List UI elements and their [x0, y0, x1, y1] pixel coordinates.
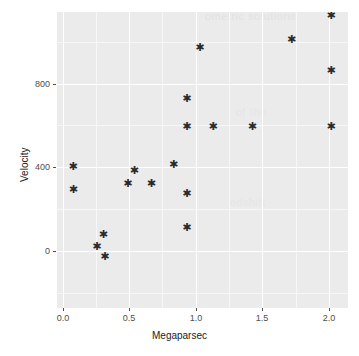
- x-tick-label: 2.0: [323, 313, 336, 323]
- data-point: ✱: [195, 42, 204, 53]
- data-point: ✱: [326, 12, 335, 20]
- data-point: ✱: [169, 159, 178, 170]
- x-tick-mark: [262, 308, 263, 311]
- x-tick-mark: [129, 308, 130, 311]
- data-point: ✱: [326, 64, 335, 75]
- data-point: ✱: [182, 221, 191, 232]
- data-point: ✱: [287, 34, 296, 45]
- y-tick-label: 800: [29, 79, 50, 89]
- data-point: ✱: [99, 229, 108, 240]
- data-point: ✱: [326, 121, 335, 132]
- x-tick-label: 1.0: [190, 313, 203, 323]
- data-points-layer: ✱✱✱✱✱✱✱✱✱✱✱✱✱✱✱✱✱✱✱✱: [57, 12, 348, 308]
- data-point: ✱: [123, 178, 132, 189]
- data-point: ✱: [100, 251, 109, 262]
- x-tick-mark: [329, 308, 330, 311]
- data-point: ✱: [182, 93, 191, 104]
- x-tick-mark: [196, 308, 197, 311]
- data-point: ✱: [248, 121, 257, 132]
- y-tick-mark: [53, 251, 56, 252]
- x-tick-label: 0.0: [57, 313, 70, 323]
- x-tick-label: 1.5: [256, 313, 269, 323]
- y-axis-title: Velocity: [19, 148, 30, 182]
- data-point: ✱: [69, 183, 78, 194]
- data-point: ✱: [182, 187, 191, 198]
- data-point: ✱: [208, 121, 217, 132]
- plot-panel: ometric solutions of the edshift ✱✱✱✱✱✱✱…: [57, 12, 348, 308]
- x-tick-label: 0.5: [123, 313, 136, 323]
- x-axis-title: Megaparsec: [0, 330, 359, 341]
- data-point: ✱: [182, 121, 191, 132]
- x-tick-mark: [63, 308, 64, 311]
- data-point: ✱: [68, 161, 77, 172]
- chart-figure: ometric solutions of the edshift ✱✱✱✱✱✱✱…: [0, 0, 359, 356]
- y-tick-label: 0: [29, 246, 50, 256]
- data-point: ✱: [147, 178, 156, 189]
- y-tick-mark: [53, 84, 56, 85]
- data-point: ✱: [130, 164, 139, 175]
- y-tick-mark: [53, 167, 56, 168]
- y-tick-label: 400: [29, 162, 50, 172]
